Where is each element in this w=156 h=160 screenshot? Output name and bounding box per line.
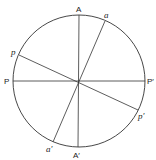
label-a: a [104, 10, 109, 20]
label-p: p [10, 47, 16, 57]
label-a-prime: a′ [46, 144, 54, 154]
label-P-prime: P′ [147, 77, 154, 86]
label-p-prime: p′ [137, 111, 146, 121]
label-P: P [4, 77, 9, 86]
label-A-prime: A′ [73, 151, 80, 160]
circle-diagram: A A′ a a′ P P′ p p′ [0, 0, 156, 160]
label-A: A [76, 5, 82, 14]
